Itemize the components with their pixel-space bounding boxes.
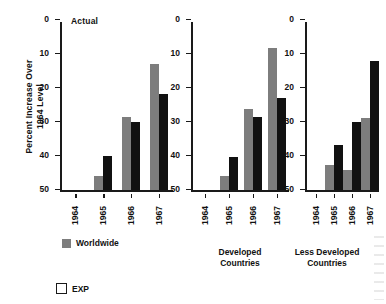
y-tick-label: 0 — [289, 15, 294, 23]
x-label-cell: 1965 — [325, 206, 343, 242]
y-tick: 50 — [186, 189, 191, 190]
bar-group — [145, 20, 173, 190]
bar-group — [89, 20, 117, 190]
y-tick-label: 50 — [285, 185, 294, 193]
bar — [122, 117, 131, 190]
y-tick: 40 — [55, 155, 60, 156]
bar-chart-figure: Percent Increase Over 1964 Level Actual … — [0, 0, 386, 304]
y-tick: 20 — [300, 87, 305, 88]
y-tick-label: 20 — [40, 83, 49, 91]
bar — [352, 122, 361, 191]
x-tick-label: 1965 — [98, 206, 108, 225]
y-tick-label: 40 — [171, 151, 180, 159]
y-tick: 0 — [300, 19, 305, 20]
y-tick-label: 20 — [285, 83, 294, 91]
bar-group — [343, 20, 361, 190]
panel-developed-countries: 1964196519661967 50403020100 — [191, 22, 291, 204]
x-tick-label: 1966 — [126, 206, 136, 225]
legend-label-worldwide: Worldwide — [76, 238, 119, 248]
y-tick: 30 — [186, 121, 191, 122]
y-tick-label: 0 — [175, 15, 180, 23]
bar — [229, 157, 238, 190]
x-tick-label: 1967 — [365, 206, 375, 225]
bar-group — [265, 20, 289, 190]
x-label-cell: 1964 — [307, 206, 325, 242]
y-tick-label: 10 — [171, 49, 180, 57]
y-tick: 50 — [55, 189, 60, 190]
bar — [103, 156, 112, 190]
x-label-cell: 1965 — [89, 206, 117, 242]
x-label-cell: 1967 — [265, 206, 289, 242]
bar — [94, 176, 103, 191]
y-tick: 10 — [55, 53, 60, 54]
bar-group — [361, 20, 379, 190]
scan-edge-artifact — [374, 236, 384, 300]
y-tick-label: 50 — [171, 185, 180, 193]
x-tick-label: 1964 — [200, 206, 210, 225]
panel-less-developed-countries: 1964196519661967 50403020100 — [305, 22, 381, 204]
y-tick: 30 — [55, 121, 60, 122]
bar — [150, 64, 159, 190]
y-tick-label: 20 — [171, 83, 180, 91]
y-tick: 20 — [186, 87, 191, 88]
y-tick-label: 40 — [285, 151, 294, 159]
y-tick: 10 — [186, 53, 191, 54]
bar-group — [307, 20, 325, 190]
x-tick-label: 1964 — [311, 206, 321, 225]
bar — [220, 176, 229, 190]
y-tick: 30 — [300, 121, 305, 122]
x-label-cell: 1964 — [193, 206, 217, 242]
x-tick-label: 1964 — [70, 206, 80, 225]
bar — [159, 94, 168, 191]
y-tick: 0 — [186, 19, 191, 20]
y-tick-label: 50 — [40, 185, 49, 193]
bar-group — [217, 20, 241, 190]
x-labels-developed: 1964196519661967 — [193, 206, 289, 242]
y-tick-label: 30 — [171, 117, 180, 125]
y-tick-label: 30 — [40, 117, 49, 125]
y-tick: 0 — [55, 19, 60, 20]
x-labels-worldwide: 1964196519661967 — [62, 206, 173, 242]
y-tick-label: 10 — [40, 49, 49, 57]
bar — [361, 118, 370, 190]
y-tick: 10 — [300, 53, 305, 54]
x-label-cell: 1966 — [241, 206, 265, 242]
x-axis-line — [191, 190, 289, 192]
bar-group — [241, 20, 265, 190]
bar — [131, 122, 140, 190]
y-tick: 40 — [300, 155, 305, 156]
bar — [253, 117, 262, 191]
y-tick: 20 — [55, 87, 60, 88]
x-label-cell: 1967 — [145, 206, 173, 242]
x-tick-label: 1967 — [154, 206, 164, 225]
bar — [334, 145, 343, 191]
x-label-cell: 1965 — [217, 206, 241, 242]
legend-swatch-exp-icon — [56, 283, 67, 294]
bar — [268, 48, 277, 191]
y-tick-label: 30 — [285, 117, 294, 125]
panel-worldwide: 1964196519661967 50403020100 — [60, 22, 175, 204]
y-tick-label: 10 — [285, 49, 294, 57]
plot-area-worldwide — [62, 20, 173, 190]
panel-caption-less-developed: Less Developed Countries — [262, 247, 386, 268]
x-tick-label: 1966 — [347, 206, 357, 225]
y-tick: 50 — [300, 189, 305, 190]
y-tick-label: 0 — [44, 15, 49, 23]
plot-area-developed — [193, 20, 289, 190]
legend-label-exp: EXP — [72, 284, 89, 294]
bar — [244, 109, 253, 191]
bar — [325, 165, 334, 191]
x-label-cell: 1966 — [117, 206, 145, 242]
x-label-cell: 1964 — [62, 206, 90, 242]
x-axis-line — [305, 190, 379, 192]
x-axis-line — [60, 190, 173, 192]
bar-group — [117, 20, 145, 190]
x-label-cell: 1966 — [343, 206, 361, 242]
bar-group — [325, 20, 343, 190]
bar — [277, 98, 286, 191]
x-labels-less-developed: 1964196519661967 — [307, 206, 379, 242]
plot-area-less-developed — [307, 20, 379, 190]
x-tick-label: 1965 — [224, 206, 234, 225]
bar-group — [62, 20, 90, 190]
y-tick: 40 — [186, 155, 191, 156]
